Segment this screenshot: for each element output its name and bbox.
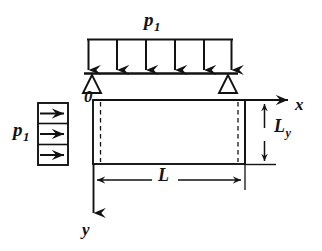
distributed-load-left	[38, 103, 68, 165]
plate-outline	[93, 100, 245, 164]
label-origin: 0	[84, 88, 93, 105]
label-load-top: p1	[144, 10, 160, 34]
pin-support-right	[219, 75, 237, 93]
triangle-icon	[219, 75, 237, 93]
label-load-left-symbol: p	[13, 119, 23, 140]
label-load-left: p1	[13, 120, 29, 144]
label-axis-x: x	[295, 96, 304, 113]
label-dimension-height: Ly	[274, 117, 291, 139]
label-dimension-height-subscript: y	[286, 126, 291, 140]
label-load-left-subscript: 1	[23, 129, 29, 144]
label-dimension-height-symbol: L	[274, 116, 285, 136]
label-load-top-symbol: p	[144, 9, 154, 30]
dimension-L	[97, 100, 276, 190]
plate-body	[93, 100, 245, 164]
label-dimension-length: L	[158, 166, 169, 184]
distributed-load-top	[84, 40, 238, 74]
label-axis-y: y	[82, 221, 90, 238]
engineering-diagram: p1 p1 0 x y L Ly	[0, 0, 322, 251]
label-load-top-subscript: 1	[154, 19, 160, 34]
